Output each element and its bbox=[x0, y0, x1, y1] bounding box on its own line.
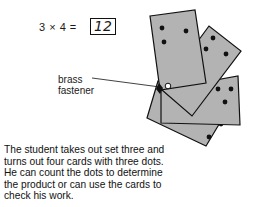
dot-card-1 bbox=[150, 10, 206, 90]
caption-text: The student takes out set three and turn… bbox=[4, 144, 174, 202]
fastener-leader-line bbox=[92, 78, 160, 87]
